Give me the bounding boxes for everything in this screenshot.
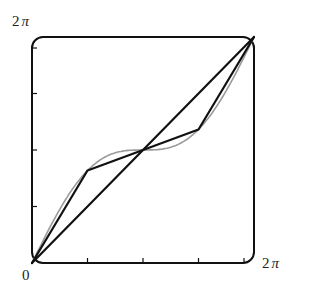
- y-axis-max-label: 2π: [12, 14, 29, 29]
- origin-label: 0: [22, 268, 30, 283]
- data-series: [32, 37, 254, 263]
- x-axis-max-label: 2π: [262, 256, 279, 271]
